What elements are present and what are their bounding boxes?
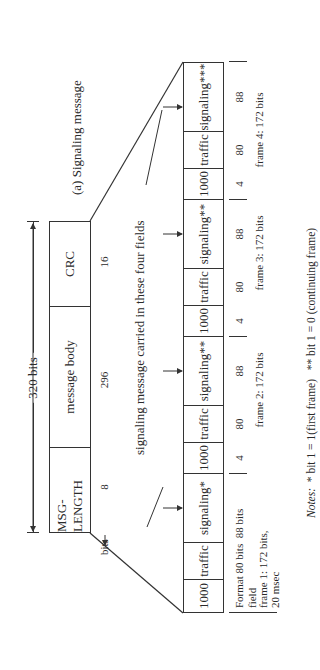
- signaling-diagram: (a) Signaling message 320 bits MSG-LENGT…: [0, 0, 320, 670]
- note-first-frame: * bit 1 = 1(first frame): [305, 379, 317, 482]
- connector-lines: [0, 0, 320, 670]
- notes: Notes: * bit 1 = 1(first frame) ** bit 1…: [305, 228, 317, 518]
- note-continuing-frame: ** bit 1 = 0 (continuing frame): [305, 228, 317, 371]
- notes-prefix: Notes:: [305, 488, 317, 518]
